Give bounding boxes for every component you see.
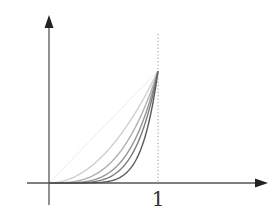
curve-x-pow-1 (49, 71, 158, 183)
y-axis-arrow-icon (45, 15, 54, 28)
chart: 1 (0, 0, 278, 215)
x-tick-label-1: 1 (152, 187, 165, 211)
power-curves (49, 71, 158, 183)
x-axis-arrow-icon (255, 179, 268, 188)
